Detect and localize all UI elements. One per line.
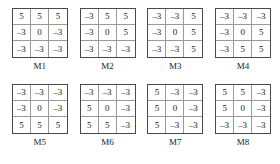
matrix-row: 5 –3 –3 <box>148 117 202 133</box>
mask-block-m1: 5 5 5 –3 0 –3 –3 –3 –3 M1 <box>9 8 71 84</box>
matrix-cell: –3 <box>13 25 31 41</box>
matrix-cell: –3 <box>184 117 202 133</box>
matrix-m2: –3 5 5 –3 0 5 –3 –3 –3 <box>80 8 136 58</box>
matrix-cell: –3 <box>166 85 184 101</box>
matrix-row: 5 0 –3 <box>81 101 135 117</box>
matrix-cell: –3 <box>252 117 270 133</box>
matrix-cell: –3 <box>148 25 166 41</box>
matrix-cell: 0 <box>166 101 184 117</box>
matrix-cell: 5 <box>216 101 234 117</box>
matrix-cell: 0 <box>166 25 184 41</box>
matrix-cell: –3 <box>216 9 234 25</box>
matrix-cell: 5 <box>184 9 202 25</box>
matrix-cell: 5 <box>49 9 67 25</box>
matrix-cell: 5 <box>148 101 166 117</box>
matrix-cell: 0 <box>31 25 49 41</box>
matrix-cell: 5 <box>234 41 252 57</box>
matrix-label-m4: M4 <box>237 62 250 71</box>
matrix-cell: 5 <box>99 117 117 133</box>
matrix-cell: –3 <box>49 25 67 41</box>
matrix-cell: 5 <box>13 9 31 25</box>
matrix-cell: 0 <box>234 25 252 41</box>
matrix-cell: 5 <box>81 117 99 133</box>
matrix-row: –3 0 5 <box>216 25 270 41</box>
matrix-cell: –3 <box>184 85 202 101</box>
matrix-label-m7: M7 <box>169 138 182 147</box>
matrix-cell: 5 <box>216 85 234 101</box>
matrix-row: –3 0 5 <box>148 25 202 41</box>
matrix-cell: –3 <box>81 9 99 25</box>
mask-block-m3: –3 –3 5 –3 0 5 –3 –3 5 M3 <box>145 8 207 84</box>
matrix-cell: –3 <box>49 85 67 101</box>
matrix-cell: 5 <box>13 117 31 133</box>
matrix-cell: –3 <box>31 85 49 101</box>
matrix-label-m6: M6 <box>101 138 114 147</box>
matrix-cell: –3 <box>184 101 202 117</box>
matrix-cell: 5 <box>31 117 49 133</box>
matrix-row: –3 5 5 <box>216 41 270 57</box>
matrix-cell: 0 <box>31 101 49 117</box>
matrix-cell: –3 <box>81 85 99 101</box>
mask-block-m8: 5 5 –3 5 0 –3 –3 –3 –3 M8 <box>212 84 274 160</box>
matrix-label-m5: M5 <box>33 138 46 147</box>
matrix-m3: –3 –3 5 –3 0 5 –3 –3 5 <box>147 8 203 58</box>
mask-block-m7: 5 –3 –3 5 0 –3 5 –3 –3 M7 <box>145 84 207 160</box>
matrix-cell: 0 <box>99 101 117 117</box>
matrix-label-m2: M2 <box>101 62 114 71</box>
matrix-cell: 5 <box>31 9 49 25</box>
matrix-cell: –3 <box>117 117 135 133</box>
mask-block-m5: –3 –3 –3 –3 0 –3 5 5 5 M5 <box>9 84 71 160</box>
matrix-label-m3: M3 <box>169 62 182 71</box>
matrix-m6: –3 –3 –3 5 0 –3 5 5 –3 <box>80 84 136 134</box>
matrix-cell: 5 <box>252 25 270 41</box>
matrix-cell: –3 <box>234 117 252 133</box>
mask-block-m4: –3 –3 –3 –3 0 5 –3 5 5 M4 <box>212 8 274 84</box>
matrix-cell: 5 <box>117 25 135 41</box>
matrix-cell: –3 <box>13 85 31 101</box>
matrix-row: 5 5 –3 <box>81 117 135 133</box>
matrix-row: 5 5 5 <box>13 9 67 25</box>
matrix-m1: 5 5 5 –3 0 –3 –3 –3 –3 <box>12 8 68 58</box>
matrix-cell: –3 <box>166 41 184 57</box>
mask-figure: 5 5 5 –3 0 –3 –3 –3 –3 M1 <box>0 0 280 164</box>
matrix-cell: –3 <box>49 41 67 57</box>
matrix-cell: 5 <box>252 41 270 57</box>
matrix-cell: –3 <box>117 85 135 101</box>
matrix-row: 5 0 –3 <box>216 101 270 117</box>
matrix-cell: 5 <box>184 41 202 57</box>
matrix-cell: –3 <box>166 117 184 133</box>
matrix-cell: –3 <box>216 117 234 133</box>
matrix-cell: –3 <box>252 101 270 117</box>
matrix-cell: 5 <box>49 117 67 133</box>
matrix-cell: 5 <box>117 9 135 25</box>
matrix-cell: –3 <box>117 101 135 117</box>
mask-block-m6: –3 –3 –3 5 0 –3 5 5 –3 M6 <box>77 84 139 160</box>
matrix-cell: –3 <box>148 41 166 57</box>
matrix-row: –3 –3 5 <box>148 9 202 25</box>
matrix-cell: –3 <box>216 41 234 57</box>
matrix-cell: 5 <box>148 117 166 133</box>
matrix-cell: –3 <box>252 9 270 25</box>
matrix-cell: 5 <box>81 101 99 117</box>
mask-row-bottom: –3 –3 –3 –3 0 –3 5 5 5 M5 <box>0 84 280 160</box>
matrix-row: –3 –3 5 <box>148 41 202 57</box>
matrix-cell: –3 <box>13 41 31 57</box>
matrix-row: –3 0 –3 <box>13 101 67 117</box>
matrix-cell: 0 <box>99 25 117 41</box>
matrix-row: –3 –3 –3 <box>81 85 135 101</box>
matrix-cell: –3 <box>99 41 117 57</box>
matrix-cell: –3 <box>216 25 234 41</box>
matrix-cell: –3 <box>148 9 166 25</box>
matrix-cell: –3 <box>166 9 184 25</box>
matrix-row: 5 0 –3 <box>148 101 202 117</box>
matrix-cell: –3 <box>49 101 67 117</box>
matrix-cell: –3 <box>252 85 270 101</box>
matrix-cell: 5 <box>234 85 252 101</box>
matrix-row: –3 –3 –3 <box>81 41 135 57</box>
matrix-cell: –3 <box>117 41 135 57</box>
matrix-cell: –3 <box>99 85 117 101</box>
matrix-cell: –3 <box>13 101 31 117</box>
matrix-label-m1: M1 <box>33 62 46 71</box>
matrix-cell: –3 <box>31 41 49 57</box>
matrix-row: 5 –3 –3 <box>148 85 202 101</box>
